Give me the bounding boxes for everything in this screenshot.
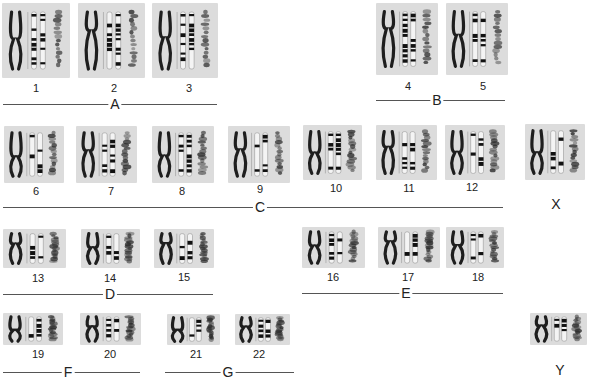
chromosome-panel-1 xyxy=(2,3,70,78)
chromosome-number-label: 1 xyxy=(21,82,51,94)
chromosome-number-label: 6 xyxy=(21,185,51,197)
chromosome-number-label: 8 xyxy=(167,185,197,197)
chromosome-panel-5 xyxy=(446,3,508,75)
chromosome-number-label: 19 xyxy=(23,348,53,360)
chromosome-panel-3 xyxy=(152,3,218,78)
chromosome-number-label: 17 xyxy=(393,271,423,283)
chromosome-panel-21 xyxy=(167,314,220,345)
chromosome-number-label: 12 xyxy=(457,181,487,193)
chromosome-number-label: 5 xyxy=(468,80,498,92)
chromosome-panel-14 xyxy=(81,229,140,268)
group-label: C xyxy=(253,200,267,214)
chromosome-number-label: 10 xyxy=(321,182,351,194)
chromosome-number-label: 13 xyxy=(23,272,53,284)
chromosome-panel-22 xyxy=(235,314,290,345)
chromosome-panel-19 xyxy=(3,313,63,345)
chromosome-panel-10 xyxy=(303,125,362,180)
chromosome-number-label: 3 xyxy=(174,82,204,94)
chromosome-number-label: 21 xyxy=(181,348,211,360)
group-label: B xyxy=(430,93,443,107)
chromosome-panel-7 xyxy=(76,126,137,183)
group-label: F xyxy=(62,365,75,379)
chromosome-panel-18 xyxy=(446,227,504,268)
chromosome-panel-6 xyxy=(4,126,64,183)
group-label: E xyxy=(399,286,412,300)
sex-chromosome-label: Y xyxy=(555,362,564,378)
chromosome-number-label: 14 xyxy=(95,272,125,284)
group-label: A xyxy=(108,97,121,111)
sex-chromosome-label: X xyxy=(551,196,560,212)
chromosome-panel-2 xyxy=(78,3,145,78)
chromosome-panel-11 xyxy=(376,125,437,180)
chromosome-panel-y xyxy=(530,313,587,345)
chromosome-number-label: 15 xyxy=(169,271,199,283)
group-label: G xyxy=(221,365,236,379)
chromosome-number-label: 4 xyxy=(393,80,423,92)
chromosome-panel-17 xyxy=(378,227,440,268)
chromosome-panel-16 xyxy=(302,227,365,268)
chromosome-panel-12 xyxy=(445,125,505,180)
chromosome-panel-4 xyxy=(376,3,438,75)
chromosome-number-label: 18 xyxy=(463,271,493,283)
group-label: D xyxy=(103,287,117,301)
chromosome-number-label: 20 xyxy=(95,348,125,360)
chromosome-number-label: 9 xyxy=(245,183,275,195)
chromosome-number-label: 22 xyxy=(244,348,274,360)
chromosome-panel-x xyxy=(525,124,585,180)
chromosome-panel-13 xyxy=(3,229,66,268)
chromosome-number-label: 2 xyxy=(99,82,129,94)
chromosome-panel-9 xyxy=(228,126,290,183)
chromosome-panel-8 xyxy=(152,126,214,183)
chromosome-number-label: 16 xyxy=(318,271,348,283)
chromosome-number-label: 7 xyxy=(96,185,126,197)
chromosome-panel-15 xyxy=(154,229,214,268)
chromosome-panel-20 xyxy=(80,313,141,345)
chromosome-number-label: 11 xyxy=(394,182,424,194)
